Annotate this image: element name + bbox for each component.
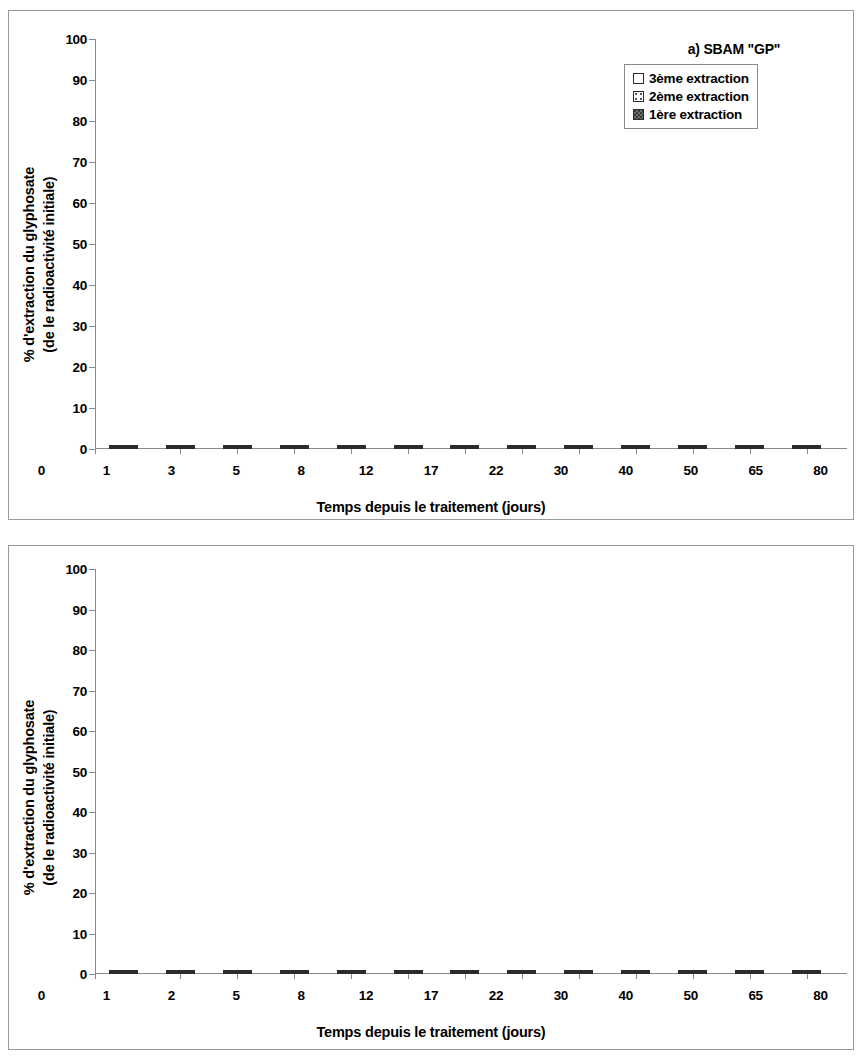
y-tick-label: 0 — [31, 967, 87, 982]
bar-slot — [493, 569, 550, 974]
x-tick-label: 17 — [399, 988, 464, 1003]
x-tick-label: 1 — [74, 988, 139, 1003]
bar-slot — [607, 569, 664, 974]
dotted-square-swatch — [633, 91, 644, 102]
y-tick-label: 60 — [31, 724, 87, 739]
x-tick-label: 80 — [788, 463, 853, 478]
y-tick-label: 50 — [31, 764, 87, 779]
x-tick-label: 12 — [334, 988, 399, 1003]
legend-item-label: 3ème extraction — [649, 71, 749, 86]
y-tick-label: 90 — [31, 602, 87, 617]
x-tick-mark — [636, 974, 637, 979]
y-tick-label: 20 — [31, 886, 87, 901]
x-tick-label: 5 — [204, 463, 269, 478]
x-tick-mark — [408, 974, 409, 979]
bar-slot — [266, 39, 323, 449]
y-tick-label: 40 — [31, 278, 87, 293]
y-tick-label: 60 — [31, 196, 87, 211]
x-tick-label-group-a: 013581217223040506580 — [9, 463, 853, 478]
x-tick-mark — [180, 449, 181, 454]
x-tick-label: 22 — [463, 463, 528, 478]
y-tick-label: 100 — [31, 32, 87, 47]
bar-slot — [778, 569, 835, 974]
x-tick-mark — [750, 449, 751, 454]
y-tick-label: 10 — [31, 401, 87, 416]
dark-stipple-square-swatch — [633, 109, 644, 120]
x-tick-label-group-b: 012581217223040506580 — [9, 988, 853, 1003]
x-tick-label: 5 — [204, 988, 269, 1003]
x-tick-label: 30 — [528, 463, 593, 478]
bar-slot — [323, 569, 380, 974]
bar-segment — [109, 447, 138, 449]
x-tick-label: 40 — [593, 463, 658, 478]
legend-box-a: 3ème extraction 2ème extraction 1ère ext… — [624, 64, 758, 129]
y-tick-label: 0 — [31, 442, 87, 457]
bar-slot — [380, 569, 437, 974]
x-tick-mark — [579, 449, 580, 454]
legend-row: 1ère extraction — [633, 105, 749, 123]
legend-item-label: 2ème extraction — [649, 89, 749, 104]
x-tick-mark — [465, 449, 466, 454]
y-tick-label: 70 — [31, 155, 87, 170]
x-tick-label: 12 — [334, 463, 399, 478]
bar-slot — [152, 39, 209, 449]
x-tick-mark — [693, 449, 694, 454]
x-tick-label: 0 — [9, 988, 74, 1003]
x-tick-label: 50 — [658, 463, 723, 478]
legend-a: a) SBAM "GP" 3ème extraction 2ème extrac… — [624, 41, 844, 129]
y-tick-label: 20 — [31, 360, 87, 375]
x-axis-title-b: Temps depuis le traitement (jours) — [9, 1024, 853, 1040]
y-tick-label: 80 — [31, 643, 87, 658]
x-tick-mark — [522, 449, 523, 454]
x-tick-mark — [522, 974, 523, 979]
x-tick-label: 0 — [9, 463, 74, 478]
bar-slot — [323, 39, 380, 449]
bar-slot — [266, 569, 323, 974]
x-axis-title-a: Temps depuis le traitement (jours) — [9, 499, 853, 515]
bar-slot — [152, 569, 209, 974]
y-tick-label: 40 — [31, 805, 87, 820]
legend-item-label: 1ère extraction — [649, 107, 742, 122]
bar-slot — [95, 39, 152, 449]
x-tick-mark — [579, 974, 580, 979]
y-tick-label: 50 — [31, 237, 87, 252]
x-tick-mark — [351, 974, 352, 979]
x-tick-mark — [294, 974, 295, 979]
y-tick-label: 10 — [31, 926, 87, 941]
legend-row: 2ème extraction — [633, 87, 749, 105]
bar-slot — [721, 569, 778, 974]
bar-segment — [109, 972, 138, 974]
x-tick-mark — [465, 974, 466, 979]
bar-group-b — [95, 569, 835, 974]
x-tick-label: 40 — [593, 988, 658, 1003]
x-tick-mark — [95, 449, 96, 454]
chart-panel-a: % d'extraction du glyphosate (de le radi… — [8, 10, 854, 520]
x-tick-mark — [237, 449, 238, 454]
bar-slot — [380, 39, 437, 449]
y-tick-label: 100 — [31, 562, 87, 577]
bar-slot — [437, 39, 494, 449]
x-tick-mark — [807, 974, 808, 979]
chart-panel-b: % d'extraction du glyphosate (de le radi… — [8, 545, 854, 1050]
x-tick-mark — [95, 974, 96, 979]
y-tick-label: 30 — [31, 845, 87, 860]
bar-slot — [550, 39, 607, 449]
stacked-bar[interactable] — [109, 445, 138, 449]
bar-slot — [550, 569, 607, 974]
x-tick-mark — [408, 449, 409, 454]
y-tick-label: 80 — [31, 114, 87, 129]
bar-slot — [209, 569, 266, 974]
x-tick-mark — [807, 449, 808, 454]
x-tick-label: 3 — [139, 463, 204, 478]
x-tick-mark — [693, 974, 694, 979]
x-tick-label: 65 — [723, 463, 788, 478]
plot-area-b: 1009080706050403020100 — [95, 569, 835, 974]
x-tick-mark — [351, 449, 352, 454]
x-tick-label: 30 — [528, 988, 593, 1003]
bar-slot — [437, 569, 494, 974]
y-tick-label: 90 — [31, 73, 87, 88]
bar-slot — [209, 39, 266, 449]
x-tick-mark — [636, 449, 637, 454]
bar-slot — [664, 569, 721, 974]
stacked-bar[interactable] — [109, 970, 138, 974]
